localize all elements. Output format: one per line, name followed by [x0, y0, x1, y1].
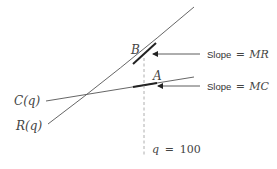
tangent-segment-a — [133, 83, 157, 87]
cost-line — [46, 77, 194, 101]
q-100-label: q = 100 — [152, 143, 201, 156]
slope-mc-value: MC — [248, 80, 269, 93]
cost-curve-label: C(q) — [14, 94, 41, 108]
marginal-revenue-cost-diagram: B A Slope = MR Slope = MC C(q) R(q) q = … — [0, 0, 277, 169]
slope-mc-annotation: Slope = MC — [207, 80, 270, 93]
revenue-curve-label: R(q) — [15, 119, 42, 133]
q-var: q — [152, 143, 159, 156]
slope-mc-eq: = — [236, 80, 245, 93]
q-eq: = — [165, 143, 174, 156]
slope-mr-annotation: Slope = MR — [207, 48, 269, 61]
slope-mr-value: MR — [248, 48, 269, 61]
slope-mc-prefix: Slope — [207, 81, 231, 92]
q-value: 100 — [180, 143, 201, 156]
slope-mr-prefix: Slope — [207, 49, 231, 60]
revenue-curve — [48, 7, 194, 124]
slope-mr-eq: = — [236, 48, 245, 61]
point-a-label: A — [152, 69, 162, 83]
point-b-label: B — [130, 43, 140, 57]
